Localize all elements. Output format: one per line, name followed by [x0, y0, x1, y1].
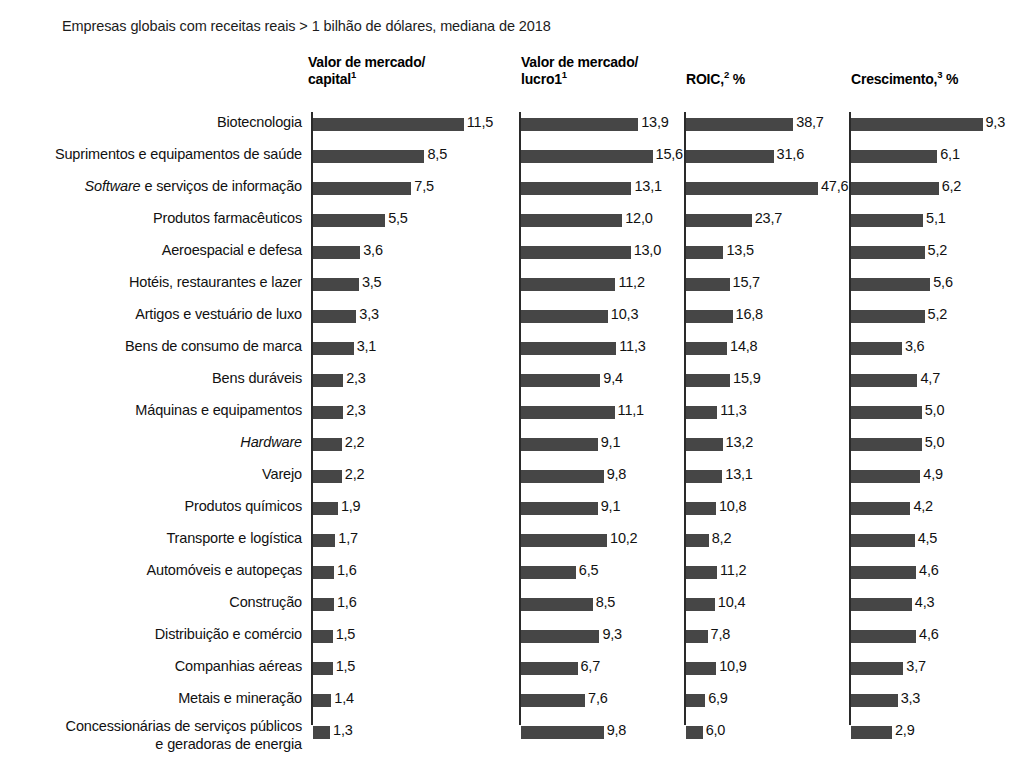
- bar-panel: 9,4: [519, 368, 659, 400]
- bar-value-label: 14,8: [730, 338, 757, 354]
- bar-value-label: 5,5: [388, 210, 408, 226]
- bar-panel: 2,3: [311, 400, 471, 432]
- bar: [313, 150, 424, 163]
- bar: [686, 310, 733, 323]
- bar-panel: 5,1: [849, 208, 989, 240]
- bar-panel: 10,4: [684, 592, 824, 624]
- bar-panel: 4,6: [849, 624, 989, 656]
- chart-row: Metais e mineração1,47,66,93,3: [0, 688, 1025, 720]
- bar: [851, 214, 923, 227]
- column-header-market-value-capital: Valor de mercado/ capital1: [308, 54, 508, 88]
- bar: [313, 470, 342, 483]
- bar-value-label: 4,3: [915, 594, 935, 610]
- bar-panel: 3,1: [311, 336, 471, 368]
- bar-value-label: 12,0: [625, 210, 652, 226]
- bar: [686, 118, 793, 131]
- bar-panel: 5,0: [849, 432, 989, 464]
- bar-panel: 9,3: [849, 112, 989, 144]
- bar: [521, 310, 608, 323]
- bar-value-label: 4,6: [919, 626, 939, 642]
- column-header-text: Crescimento,: [851, 71, 937, 87]
- bar-panel: 6,5: [519, 560, 659, 592]
- chart-row: Hardware2,29,113,25,0: [0, 432, 1025, 464]
- bar-panel: 1,6: [311, 560, 471, 592]
- column-header-text: ROIC,: [686, 71, 724, 87]
- bar-value-label: 2,3: [346, 402, 366, 418]
- bar: [313, 502, 338, 515]
- bar: [521, 406, 615, 419]
- bar: [686, 342, 727, 355]
- bar-value-label: 3,1: [357, 338, 377, 354]
- bar: [521, 118, 638, 131]
- bar: [686, 662, 716, 675]
- row-label: Aeroespacial e defesa: [10, 242, 302, 259]
- bar-panel: 11,3: [684, 400, 824, 432]
- bar-panel: 15,6: [519, 144, 659, 176]
- bar-panel: 7,6: [519, 688, 659, 720]
- row-label: Distribuição e comércio: [10, 626, 302, 643]
- bar-value-label: 6,1: [940, 146, 960, 162]
- bar: [686, 566, 717, 579]
- bar: [686, 246, 723, 259]
- bar: [686, 438, 723, 451]
- bar-panel: 5,0: [849, 400, 989, 432]
- bar: [521, 374, 600, 387]
- bar: [686, 182, 818, 195]
- bar: [521, 438, 598, 451]
- bar-value-label: 15,6: [656, 146, 683, 162]
- chart-row: Artigos e vestuário de luxo3,310,316,85,…: [0, 304, 1025, 336]
- bar: [313, 406, 343, 419]
- bar-value-label: 23,7: [755, 210, 782, 226]
- bar: [851, 246, 925, 259]
- row-label: Bens duráveis: [10, 370, 302, 387]
- bar-panel: 5,6: [849, 272, 989, 304]
- bar: [313, 278, 359, 291]
- bar: [313, 310, 356, 323]
- row-label: Software e serviços de informação: [10, 178, 302, 195]
- bar-panel: 3,3: [311, 304, 471, 336]
- chart-row: Hotéis, restaurantes e lazer3,511,215,75…: [0, 272, 1025, 304]
- bar-value-label: 9,3: [602, 626, 622, 642]
- bar-panel: 38,7: [684, 112, 824, 144]
- bar-panel: 9,8: [519, 720, 659, 752]
- bar-panel: 16,8: [684, 304, 824, 336]
- row-label: Companhias aéreas: [10, 658, 302, 675]
- bar-value-label: 2,3: [346, 370, 366, 386]
- bar-value-label: 9,1: [601, 498, 621, 514]
- bar-value-label: 9,8: [607, 722, 627, 738]
- footnote-marker-1: 1: [351, 69, 356, 80]
- bar-value-label: 5,6: [933, 274, 953, 290]
- bar-panel: 10,8: [684, 496, 824, 528]
- row-label: Bens de consumo de marca: [10, 338, 302, 355]
- bar-value-label: 3,7: [906, 658, 926, 674]
- bar: [313, 374, 343, 387]
- bar: [313, 566, 334, 579]
- bar: [521, 150, 653, 163]
- bar-panel: 2,3: [311, 368, 471, 400]
- bar-panel: 6,2: [849, 176, 989, 208]
- bar-value-label: 10,4: [718, 594, 745, 610]
- bar-panel: 10,3: [519, 304, 659, 336]
- chart-row: Biotecnologia11,513,938,79,3: [0, 112, 1025, 144]
- bar-value-label: 11,1: [618, 402, 644, 418]
- bar: [313, 214, 385, 227]
- bar-value-label: 10,2: [610, 530, 637, 546]
- bar: [686, 534, 709, 547]
- column-header-line1: Valor de mercado/: [308, 54, 425, 70]
- bar-value-label: 1,9: [341, 498, 361, 514]
- bar-panel: 3,6: [311, 240, 471, 272]
- bar: [686, 406, 717, 419]
- bar-panel: 4,6: [849, 560, 989, 592]
- bar-panel: 9,3: [519, 624, 659, 656]
- bar: [686, 502, 716, 515]
- bar-value-label: 1,4: [334, 690, 354, 706]
- bar-panel: 11,2: [684, 560, 824, 592]
- row-label: Metais e mineração: [10, 690, 302, 707]
- bar-value-label: 3,3: [901, 690, 921, 706]
- bar: [313, 534, 335, 547]
- bar: [521, 342, 616, 355]
- bar-panel: 4,3: [849, 592, 989, 624]
- bar-panel: 3,5: [311, 272, 471, 304]
- bar-panel: 3,6: [849, 336, 989, 368]
- bar-value-label: 8,5: [596, 594, 616, 610]
